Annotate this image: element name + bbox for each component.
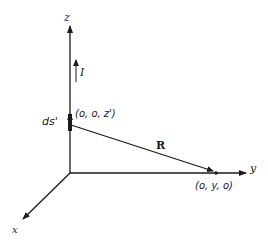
current-label: I — [79, 66, 85, 79]
separation-vector-R — [71, 125, 213, 171]
field-point-label: (o, y, o) — [195, 180, 233, 191]
source-point-label: (o, o, z') — [75, 108, 116, 119]
x-axis — [23, 173, 70, 219]
z-axis-label: z — [63, 11, 70, 24]
source-element-label: ds' — [42, 115, 58, 128]
biot-savart-diagram: z y x I ds' (o, o, z') R (o, y, o) — [0, 0, 268, 245]
field-point-dot — [214, 171, 218, 175]
x-axis-label: x — [12, 224, 18, 235]
separation-vector-label: R — [156, 139, 166, 152]
y-axis-label: y — [249, 162, 257, 175]
